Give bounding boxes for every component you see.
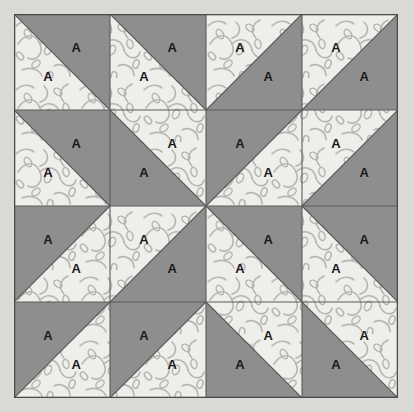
patch-label-solid-r2c4: A [359, 165, 369, 180]
patch-label-print-r4c3: A [263, 328, 273, 343]
patch-label-print-r3c3: A [235, 261, 245, 276]
patch-label-solid-r3c3: A [263, 232, 273, 247]
quilt-block: AAAAAAAAAAAAAAAAAAAAAAAAAAAAAAAA [14, 14, 398, 398]
patch-label-solid-r3c2: A [167, 261, 177, 276]
patch-label-print-r3c2: A [139, 232, 149, 247]
seam-layer [14, 14, 398, 398]
patch-label-solid-r2c1: A [71, 136, 81, 151]
patch-label-solid-r2c2: A [139, 165, 149, 180]
patch-label-solid-r1c1: A [71, 40, 81, 55]
patch-label-print-r4c4: A [359, 328, 369, 343]
patch-label-solid-r1c3: A [263, 69, 273, 84]
patch-label-solid-r1c4: A [359, 69, 369, 84]
patch-label-solid-r4c4: A [331, 357, 341, 372]
patch-label-print-r4c1: A [71, 357, 81, 372]
patch-label-solid-r3c4: A [359, 232, 369, 247]
patch-label-solid-r4c3: A [235, 357, 245, 372]
patch-label-solid-r1c2: A [167, 40, 177, 55]
patch-label-print-r1c2: A [139, 69, 149, 84]
patch-label-solid-r2c3: A [235, 136, 245, 151]
patch-label-print-r1c3: A [235, 40, 245, 55]
patch-label-print-r1c1: A [43, 69, 53, 84]
patch-label-print-r3c1: A [71, 261, 81, 276]
patch-label-solid-r3c1: A [43, 232, 53, 247]
patch-label-print-r3c4: A [331, 261, 341, 276]
patch-label-solid-r4c2: A [139, 328, 149, 343]
patch-label-print-r2c4: A [331, 136, 341, 151]
diagram-canvas: AAAAAAAAAAAAAAAAAAAAAAAAAAAAAAAA [0, 0, 414, 412]
quilt-block-svg: AAAAAAAAAAAAAAAAAAAAAAAAAAAAAAAA [14, 14, 398, 398]
patch-label-print-r4c2: A [167, 357, 177, 372]
patch-label-solid-r4c1: A [43, 328, 53, 343]
patch-label-print-r2c1: A [43, 165, 53, 180]
patch-label-print-r2c3: A [263, 165, 273, 180]
patch-label-print-r2c2: A [167, 136, 177, 151]
patch-label-print-r1c4: A [331, 40, 341, 55]
